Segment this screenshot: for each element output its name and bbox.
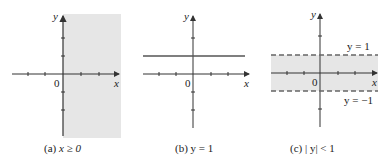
origin-label: 0 [185,77,191,89]
upper-boundary-label: y = 1 [347,40,370,52]
x-axis-label: x [113,77,119,89]
figure-canvas: y x 0 (a) x ≥ 0 y x 0 (b) y = 1 [0,0,387,158]
caption-a: (a) x ≥ 0 [44,142,81,155]
lower-boundary-label: y = −1 [344,94,373,106]
panel-b: y x 0 (b) y = 1 [143,10,249,155]
y-axis-label: y [52,10,58,22]
y-axis-label: y [310,8,316,20]
panel-a: y x 0 (a) x ≥ 0 [12,10,121,155]
origin-label: 0 [54,77,60,89]
origin-label: 0 [312,76,318,88]
caption-b: (b) y = 1 [175,142,213,155]
y-axis-label: y [183,10,189,22]
caption-c: (c) | y| < 1 [290,142,335,155]
shaded-half-plane [63,14,121,138]
x-axis-label: x [243,77,249,89]
x-axis-label: x [371,76,377,88]
panel-c: y x 0 y = 1 y = −1 (c) | y| < 1 [271,8,378,155]
